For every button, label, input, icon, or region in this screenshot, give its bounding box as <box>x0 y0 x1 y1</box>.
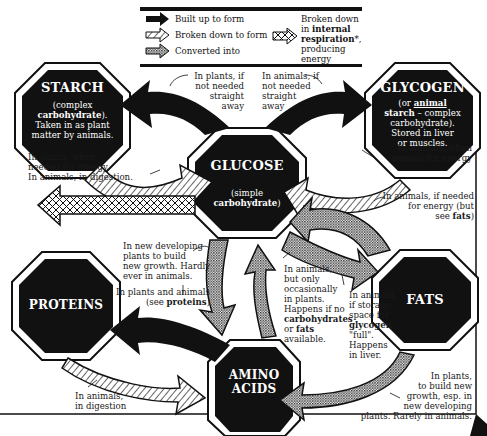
glycogen-description: (or animal starch – complex carbohydrate… <box>372 98 473 148</box>
legend-broken-down: Broken down to form <box>175 30 267 40</box>
amino-acids-title: AMINOACIDS <box>215 368 293 396</box>
label-animals-energy: In animals, whenneeded for energy <box>380 143 472 163</box>
crosshatch-arrow-icon <box>271 28 301 48</box>
label-animals-digestion: In animals,in digestion <box>75 391 145 411</box>
frame-corner <box>470 414 487 436</box>
starch-title: STARCH <box>22 80 123 95</box>
legend-converted: Converted into <box>175 46 240 56</box>
arrow-amino-to-glucose <box>245 245 276 338</box>
label-animals-not-needed: In animals, ifnot neededstraightaway <box>262 71 328 111</box>
glucose-description: (simple carbohydrate) <box>195 188 299 208</box>
solid-arrow-icon <box>146 12 169 26</box>
proteins-title: PROTEINS <box>19 298 113 312</box>
hatched-arrow-icon <box>146 28 169 42</box>
label-plants-energy: In plants, whenneeded for energy.In anim… <box>28 152 168 182</box>
legend-respiration: Broken down in internal respiration*, pr… <box>301 14 363 64</box>
legend: Built up to form Broken down to form Con… <box>140 7 362 67</box>
legend-icons <box>143 11 173 63</box>
label-plants-and-animals: In plants and animals(see proteins) <box>110 287 210 307</box>
label-new-developing: In new developingplants to buildnew grow… <box>123 241 213 281</box>
label-plants-new-growth: In plants,to build newgrowth, esp. innew… <box>360 371 472 421</box>
starch-description: (complex carbohydrate). Taken in as plan… <box>22 100 123 140</box>
legend-built-up: Built up to form <box>175 14 244 24</box>
label-plants-not-needed: In plants, ifnot neededstraightaway <box>180 71 244 111</box>
dotted-arrow-icon <box>146 44 169 58</box>
glycogen-title: GLYCOGEN <box>372 80 473 95</box>
diagram: Built up to form Broken down to form Con… <box>0 0 487 436</box>
label-animals-storage: In animals,if storagespace forglycogen"f… <box>349 290 399 360</box>
glucose-title: GLUCOSE <box>195 158 299 173</box>
label-animals-fats: In animals, if neededfor energy (butsee … <box>382 191 474 221</box>
